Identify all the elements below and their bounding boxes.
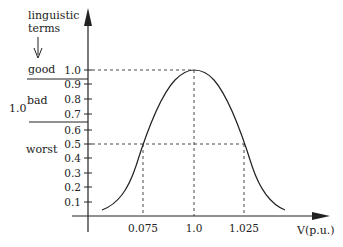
y-tick-0.2: 0.2: [64, 181, 81, 193]
term-worst: worst: [26, 143, 58, 156]
y-tick-0.3: 0.3: [64, 167, 81, 179]
x-tick-1.025: 1.025: [229, 222, 259, 234]
membership-curve: [102, 70, 285, 210]
term-bad-prefix: 1.0: [9, 102, 27, 115]
term-bad: bad: [27, 94, 48, 107]
x-tick-0.075: 0.075: [128, 222, 158, 234]
x-axis-label: V(p.u.): [296, 224, 335, 237]
y-tick-0.8: 0.8: [64, 93, 81, 105]
y-tick-labels: 1.0 0.9 0.8 0.7 0.6 0.5 0.4 0.3 0.2 0.1: [64, 64, 81, 208]
y-tick-0.6: 0.6: [64, 124, 81, 136]
term-good: good: [28, 63, 55, 76]
y-tick-0.7: 0.7: [64, 108, 81, 120]
y-tick-0.4: 0.4: [64, 152, 81, 164]
y-tick-0.9: 0.9: [64, 78, 81, 90]
linguistic-label-line1: linguistic: [28, 9, 80, 22]
y-tick-0.5: 0.5: [64, 138, 81, 150]
linguistic-label-line2: terms: [28, 22, 61, 35]
x-axis-arrow-icon: [312, 212, 330, 220]
y-tick-0.1: 0.1: [64, 196, 81, 208]
dashed-guides: [92, 70, 244, 216]
y-axis-arrow-icon: [84, 8, 92, 26]
x-tick-1.0: 1.0: [186, 222, 203, 234]
y-tick-1.0: 1.0: [64, 64, 81, 76]
membership-diagram: 1.0 0.9 0.8 0.7 0.6 0.5 0.4 0.3 0.2 0.1 …: [0, 0, 343, 247]
